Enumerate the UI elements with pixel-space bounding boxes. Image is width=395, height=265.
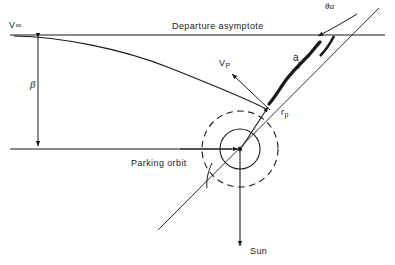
theta-a-arc-arrow (318, 14, 357, 36)
v-periapsis-label: VP (219, 58, 230, 68)
parking-orbit-label: Parking orbit (131, 158, 187, 168)
theta-a-label: θa (325, 1, 335, 11)
r-periapsis-subscript: p (284, 111, 288, 118)
beta-label: β (30, 78, 36, 90)
theta-a-angle-arc (320, 36, 334, 56)
infinity-subscript: ∞ (15, 21, 21, 30)
center-angle-arc (207, 163, 212, 188)
v-infinity-label: V∞ (9, 20, 21, 30)
departure-asymptote-label: Departure asymptote (172, 21, 264, 31)
v-periapsis-subscript: P (225, 62, 230, 69)
theta-a-symbol: θa (325, 1, 335, 11)
orbital-departure-diagram: V∞ β Departure asymptote θa a VP rp Park… (0, 0, 395, 265)
r-periapsis-label: rp (281, 107, 289, 117)
hyperbolic-trajectory-curve (14, 36, 266, 109)
r-periapsis-arrow (242, 107, 268, 147)
v-periapsis-arrow (232, 74, 270, 110)
diagram-canvas (0, 0, 395, 265)
semi-major-axis-label: a (293, 52, 299, 63)
sun-label: Sun (250, 246, 267, 256)
apse-line (158, 8, 379, 230)
